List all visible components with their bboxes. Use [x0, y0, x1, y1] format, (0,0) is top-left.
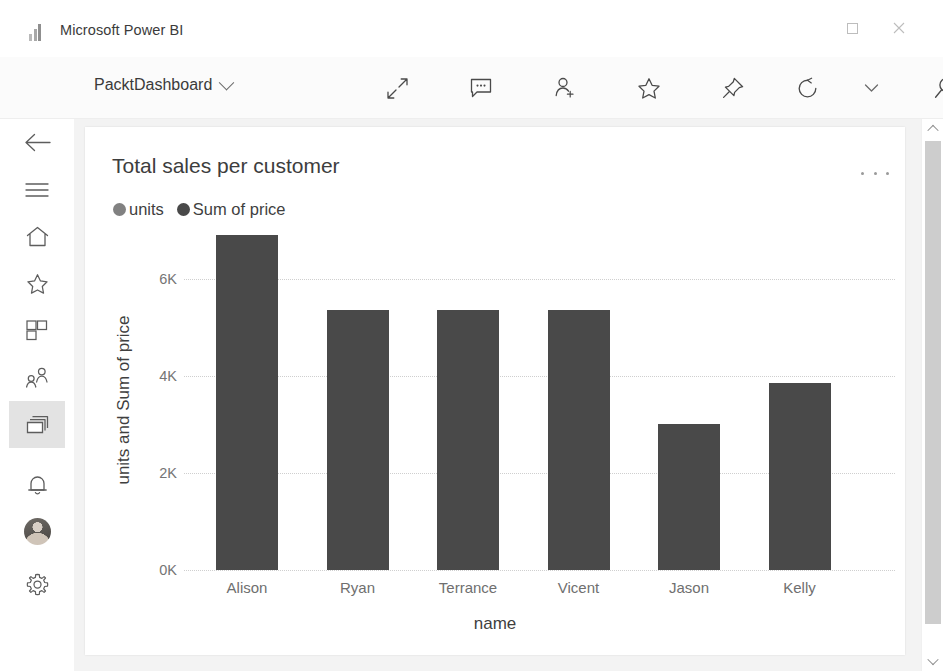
bar[interactable]: [548, 310, 610, 570]
x-axis-tick-label: Terrance: [439, 579, 497, 596]
avatar: [24, 518, 51, 545]
favorite-button[interactable]: [607, 57, 691, 119]
sidebar-item-favorites[interactable]: [9, 260, 65, 307]
command-bar: PacktDashboard: [0, 57, 943, 119]
add-person-icon: [553, 76, 577, 100]
dashboard-selector[interactable]: PacktDashboard: [94, 76, 232, 94]
pin-icon: [721, 76, 745, 100]
sidebar-item-settings[interactable]: [9, 561, 65, 608]
sidebar-item-home[interactable]: [9, 213, 65, 260]
pin-button[interactable]: [691, 57, 775, 119]
close-button[interactable]: [876, 12, 922, 44]
comment-button[interactable]: [439, 57, 523, 119]
x-axis-tick-label: Vicent: [558, 579, 599, 596]
scroll-up-button[interactable]: [922, 119, 943, 139]
x-axis-tick-label: Ryan: [340, 579, 375, 596]
star-icon: [26, 273, 49, 295]
report-tile[interactable]: Total sales per customer unitsSum of pri…: [85, 127, 905, 655]
search-button[interactable]: [903, 57, 943, 119]
dashboard-name-label: PacktDashboard: [94, 76, 212, 94]
x-axis-tick-label: Kelly: [783, 579, 816, 596]
sidebar-item-dashboards[interactable]: [9, 401, 65, 448]
bar-chart-plot: units and Sum of price name 0K2K4K6KAlis…: [85, 127, 905, 655]
dashboards-icon: [25, 414, 50, 435]
gear-icon: [26, 573, 49, 596]
sidebar-item-back[interactable]: [9, 119, 65, 166]
bell-icon: [27, 474, 48, 496]
bar[interactable]: [216, 235, 278, 570]
chevron-up-icon: [927, 125, 938, 136]
scrollbar-thumb[interactable]: [925, 141, 941, 624]
comment-icon: [469, 77, 493, 99]
back-arrow-icon: [24, 132, 51, 153]
sidebar-item-menu[interactable]: [9, 166, 65, 213]
power-bi-bars-icon: [29, 23, 45, 41]
power-bi-window: Microsoft Power BI PacktDashboard: [0, 0, 943, 671]
maximize-icon: [847, 23, 858, 34]
refresh-button[interactable]: [775, 57, 839, 119]
star-icon: [637, 77, 661, 100]
sidebar-item-account[interactable]: [9, 508, 65, 555]
sidebar-item-notifications[interactable]: [9, 461, 65, 508]
apps-grid-icon: [26, 320, 48, 341]
window-title-bar: Microsoft Power BI: [0, 0, 943, 57]
sidebar-item-shared-with-me[interactable]: [9, 354, 65, 401]
chevron-down-icon: [219, 74, 235, 90]
minimize-button[interactable]: [778, 12, 824, 44]
maximize-button[interactable]: [829, 12, 875, 44]
search-icon: [933, 76, 943, 100]
close-icon: [893, 22, 905, 34]
chevron-down-icon: [864, 83, 879, 93]
fullscreen-button[interactable]: [355, 57, 439, 119]
scroll-down-button[interactable]: [922, 651, 943, 671]
refresh-icon: [796, 77, 819, 100]
vertical-scrollbar[interactable]: [921, 119, 943, 671]
bar[interactable]: [658, 424, 720, 570]
shared-people-icon: [25, 367, 50, 388]
bar[interactable]: [437, 310, 499, 570]
left-navigation-rail: [0, 119, 74, 671]
bar[interactable]: [327, 310, 389, 570]
command-bar-actions: [355, 57, 943, 119]
chevron-down-icon: [927, 654, 938, 665]
x-axis-tick-label: Jason: [669, 579, 709, 596]
app-title: Microsoft Power BI: [60, 22, 183, 38]
fullscreen-icon: [386, 77, 409, 100]
refresh-options-button[interactable]: [839, 57, 903, 119]
dashboard-canvas: Total sales per customer unitsSum of pri…: [74, 119, 943, 671]
hamburger-menu-icon: [25, 182, 49, 198]
sidebar-item-apps[interactable]: [9, 307, 65, 354]
bar-series: [85, 127, 905, 655]
home-icon: [26, 226, 49, 247]
x-axis-tick-label: Alison: [227, 579, 268, 596]
share-button[interactable]: [523, 57, 607, 119]
bar[interactable]: [769, 383, 831, 570]
